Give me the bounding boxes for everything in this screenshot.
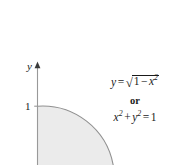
unit-circle-figure: y 1 y=√1−x2 or x2+y2=1 (0, 0, 180, 165)
equation-secondary-rhs: 1 (151, 111, 157, 123)
equation-primary-equals: = (116, 76, 126, 88)
equation-conjunction: or (92, 96, 178, 107)
radicand: 1−x2 (132, 75, 159, 88)
radicand-operator: − (139, 75, 149, 87)
equation-annotation: y=√1−x2 or x2+y2=1 (92, 76, 178, 124)
y-tick-label-1: 1 (25, 101, 31, 112)
equation-secondary-operator: + (123, 111, 133, 123)
equation-secondary: x2+y2=1 (92, 112, 178, 124)
equation-primary: y=√1−x2 (92, 76, 178, 89)
equation-secondary-equals: = (141, 111, 151, 123)
radicand-exponent: 2 (154, 73, 158, 82)
square-root-expression: √1−x2 (126, 76, 159, 89)
y-axis-arrowhead-icon (35, 62, 41, 69)
y-axis-label: y (27, 61, 32, 72)
